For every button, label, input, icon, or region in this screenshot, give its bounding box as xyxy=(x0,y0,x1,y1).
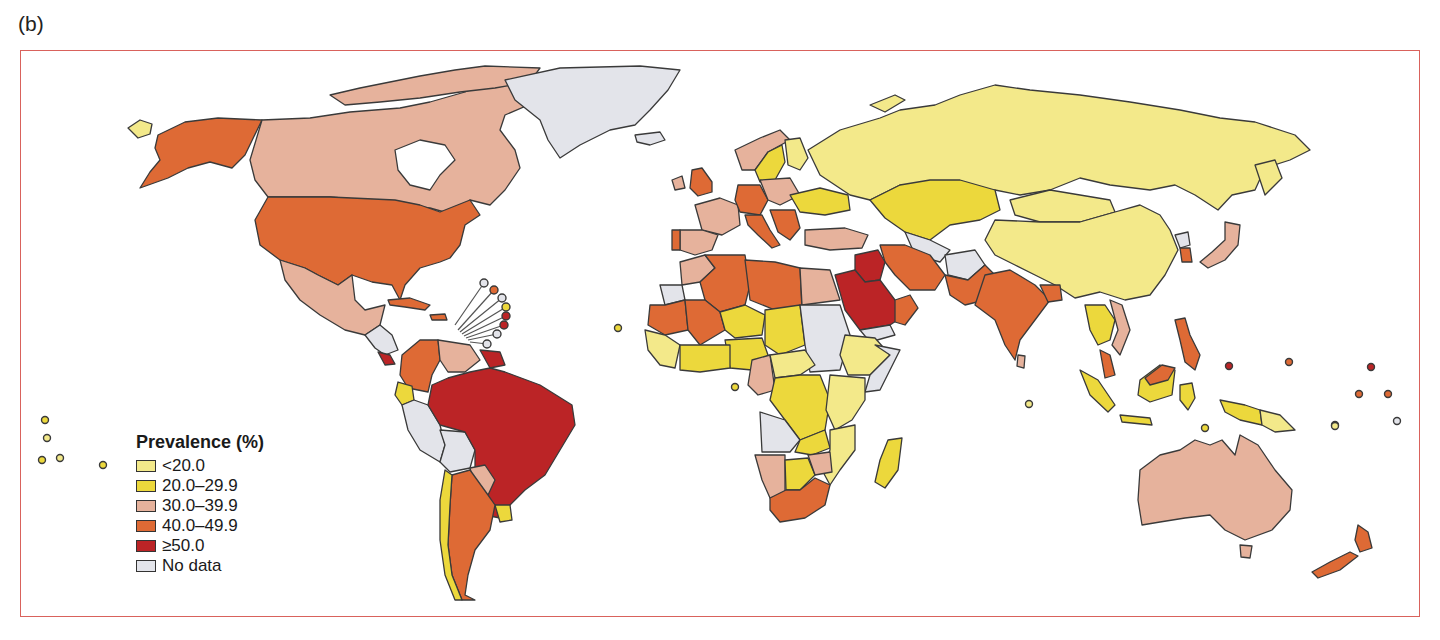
island-dot[interactable] xyxy=(1368,364,1375,371)
region-portugal[interactable] xyxy=(672,230,680,250)
region-png[interactable] xyxy=(1260,410,1295,432)
region-malaysia[interactable] xyxy=(1100,350,1115,378)
legend-swatch xyxy=(136,540,156,552)
region-papua[interactable] xyxy=(1220,400,1262,425)
legend-swatch xyxy=(136,560,156,572)
region-mauritania[interactable] xyxy=(648,300,688,335)
legend-item: ≥50.0 xyxy=(136,536,264,556)
region-car[interactable] xyxy=(770,350,815,378)
region-finland[interactable] xyxy=(785,138,808,170)
island-dot[interactable] xyxy=(1026,401,1033,408)
legend: Prevalence (%) <20.0 20.0–29.9 30.0–39.9… xyxy=(136,432,264,576)
legend-swatch xyxy=(136,500,156,512)
legend-label: 40.0–49.9 xyxy=(162,516,238,536)
region-east-africa[interactable] xyxy=(826,375,865,430)
island-dot[interactable] xyxy=(1394,418,1401,425)
region-niger[interactable] xyxy=(720,305,765,338)
legend-item: 30.0–39.9 xyxy=(136,496,264,516)
region-java[interactable] xyxy=(1120,415,1152,425)
island-dot[interactable] xyxy=(57,455,64,462)
region-uruguay[interactable] xyxy=(495,505,512,522)
island-dot[interactable] xyxy=(493,330,501,338)
legend-item: 20.0–29.9 xyxy=(136,476,264,496)
region-venezuela[interactable] xyxy=(438,340,480,372)
region-guianas[interactable] xyxy=(480,350,505,368)
island-dot[interactable] xyxy=(490,286,498,294)
legend-swatch xyxy=(136,520,156,532)
region-turkey[interactable] xyxy=(805,228,868,250)
legend-swatch xyxy=(136,460,156,472)
island-dot[interactable] xyxy=(1226,363,1233,370)
region-united-kingdom[interactable] xyxy=(690,168,712,196)
island-dot[interactable] xyxy=(502,312,510,320)
region-chad[interactable] xyxy=(765,305,805,355)
region-south-korea[interactable] xyxy=(1180,248,1192,262)
region-libya[interactable] xyxy=(745,260,802,312)
region-egypt[interactable] xyxy=(800,268,840,305)
legend-item: 40.0–49.9 xyxy=(136,516,264,536)
island-dot[interactable] xyxy=(500,321,508,329)
region-north-korea[interactable] xyxy=(1175,232,1190,248)
island-dot[interactable] xyxy=(732,384,739,391)
legend-item: <20.0 xyxy=(136,456,264,476)
region-iceland-uk[interactable] xyxy=(672,176,685,190)
region-madagascar[interactable] xyxy=(875,438,902,488)
region-india[interactable] xyxy=(975,270,1050,360)
island-dot[interactable] xyxy=(480,279,488,287)
island-dot[interactable] xyxy=(44,435,51,442)
region-thailand-laos[interactable] xyxy=(1085,305,1115,345)
legend-label: 20.0–29.9 xyxy=(162,476,238,496)
region-tasmania[interactable] xyxy=(1240,545,1252,558)
legend-swatch xyxy=(136,480,156,492)
region-hispaniola[interactable] xyxy=(430,314,447,320)
region-sri-lanka[interactable] xyxy=(1017,355,1025,368)
region-new-zealand-north[interactable] xyxy=(1355,525,1372,552)
region-kamchatka[interactable] xyxy=(1255,160,1282,195)
region-philippines[interactable] xyxy=(1175,318,1200,370)
region-germany[interactable] xyxy=(735,185,768,215)
region-west-africa-coast[interactable] xyxy=(645,330,680,368)
region-oman-uae[interactable] xyxy=(895,295,918,325)
region-sulawesi[interactable] xyxy=(1180,383,1195,410)
region-iceland[interactable] xyxy=(635,132,665,145)
island-dot[interactable] xyxy=(1356,391,1363,398)
island-dot[interactable] xyxy=(39,457,46,464)
region-spain[interactable] xyxy=(680,230,718,255)
legend-item: No data xyxy=(136,556,264,576)
region-australia[interactable] xyxy=(1138,435,1292,540)
region-gulf-guinea[interactable] xyxy=(680,345,730,372)
region-new-zealand-south[interactable] xyxy=(1312,552,1358,578)
region-balkans[interactable] xyxy=(770,210,800,240)
island-dot[interactable] xyxy=(1202,425,1209,432)
region-costa-rica[interactable] xyxy=(378,352,395,365)
island-dot[interactable] xyxy=(100,462,107,469)
legend-label: ≥50.0 xyxy=(162,536,204,556)
island-dot[interactable] xyxy=(483,340,491,348)
legend-label: <20.0 xyxy=(162,456,205,476)
region-alaska[interactable] xyxy=(140,118,262,188)
island-dot[interactable] xyxy=(42,417,49,424)
region-namibia[interactable] xyxy=(755,455,785,498)
island-dot[interactable] xyxy=(1332,423,1339,430)
island-dot[interactable] xyxy=(498,294,506,302)
legend-label: No data xyxy=(162,556,222,576)
island-dot[interactable] xyxy=(615,325,622,332)
legend-label: 30.0–39.9 xyxy=(162,496,238,516)
region-japan[interactable] xyxy=(1200,222,1240,268)
island-dot[interactable] xyxy=(1385,391,1392,398)
region-cuba[interactable] xyxy=(388,298,430,310)
region-alaska-island[interactable] xyxy=(128,120,152,138)
island-dot[interactable] xyxy=(1286,359,1293,366)
island-dot[interactable] xyxy=(502,303,510,311)
legend-title: Prevalence (%) xyxy=(136,432,264,453)
